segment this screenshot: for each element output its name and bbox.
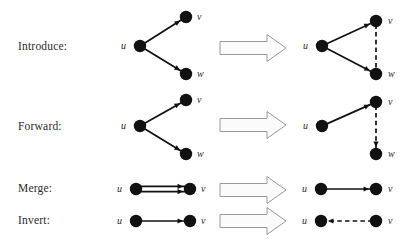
graph-before-merge: uv xyxy=(117,183,206,195)
rightwards-block-arrow-icon-forward xyxy=(220,112,286,139)
operation-label-introduce: Introduce: xyxy=(18,40,67,52)
edge-arrowhead xyxy=(178,189,184,194)
diagram-canvas: Introduce:uvwuvwForward:uvwuvwMerge:uvuv… xyxy=(0,0,412,246)
operation-label-invert: Invert: xyxy=(18,214,50,226)
graph-before-forward: uvw xyxy=(121,94,204,160)
node-u xyxy=(315,183,327,195)
node-v xyxy=(370,183,382,195)
vertex-label-v: v xyxy=(388,15,393,26)
operation-label-forward: Forward: xyxy=(18,120,62,132)
vertex-label-u: u xyxy=(302,183,307,194)
vertex-label-v: v xyxy=(388,96,393,107)
node-w xyxy=(180,148,192,160)
vertex-label-v: v xyxy=(388,183,393,194)
node-v xyxy=(180,94,192,106)
node-v xyxy=(370,96,382,108)
edge-arrowhead xyxy=(178,218,184,223)
edge-arrowhead xyxy=(364,186,370,191)
graph-after-introduce: uvw xyxy=(303,15,395,80)
vertex-label-v: v xyxy=(388,215,393,226)
vertex-label-w: w xyxy=(197,68,204,79)
graph-before-invert: uv xyxy=(117,215,206,227)
node-w xyxy=(180,68,192,80)
row-invert: Invert:uvuv xyxy=(18,208,393,235)
rightwards-block-arrow-icon-invert xyxy=(220,208,286,235)
vertex-label-w: w xyxy=(388,68,395,79)
graph-after-invert: uv xyxy=(302,215,393,227)
graph-after-forward: uvw xyxy=(303,96,395,160)
node-u xyxy=(130,183,142,195)
node-u xyxy=(134,40,146,52)
node-v xyxy=(370,215,382,227)
vertex-label-v: v xyxy=(201,215,206,226)
vertex-label-u: u xyxy=(117,215,122,226)
edge-arrowhead xyxy=(328,218,334,223)
row-forward: Forward:uvwuvw xyxy=(18,94,395,160)
vertex-label-u: u xyxy=(303,120,308,131)
node-v xyxy=(180,11,192,23)
edge-arrowhead xyxy=(373,142,378,148)
node-w xyxy=(370,68,382,80)
node-u xyxy=(316,40,328,52)
vertex-label-u: u xyxy=(117,183,122,194)
node-u xyxy=(316,120,328,132)
node-w xyxy=(370,148,382,160)
node-u xyxy=(315,215,327,227)
row-merge: Merge:uvuv xyxy=(18,177,393,204)
operations-diagram: Introduce:uvwuvwForward:uvwuvwMerge:uvuv… xyxy=(0,0,412,246)
vertex-label-v: v xyxy=(197,11,202,22)
rightwards-block-arrow-icon-merge xyxy=(220,177,286,204)
node-u xyxy=(130,215,142,227)
edge-arrowhead xyxy=(178,184,184,189)
vertex-label-u: u xyxy=(121,120,126,131)
vertex-label-u: u xyxy=(121,40,126,51)
node-v xyxy=(184,183,196,195)
vertex-label-v: v xyxy=(201,183,206,194)
graph-before-introduce: uvw xyxy=(121,11,204,80)
vertex-label-u: u xyxy=(302,215,307,226)
row-introduce: Introduce:uvwuvw xyxy=(18,11,395,80)
vertex-label-v: v xyxy=(197,94,202,105)
operation-label-merge: Merge: xyxy=(18,182,52,195)
vertex-label-w: w xyxy=(388,148,395,159)
vertex-label-w: w xyxy=(197,148,204,159)
node-v xyxy=(370,15,382,27)
node-u xyxy=(134,120,146,132)
vertex-label-u: u xyxy=(303,40,308,51)
graph-after-merge: uv xyxy=(302,183,393,195)
node-v xyxy=(184,215,196,227)
rightwards-block-arrow-icon-introduce xyxy=(220,35,286,62)
